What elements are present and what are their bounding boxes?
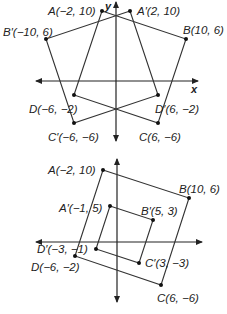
label-c-prime: C′(−6, −6)	[48, 131, 99, 143]
label-d: D(−6, −2)	[29, 103, 78, 115]
diagram-canvas: x y A(−2, 10) A′(2, 10) B′(−10, 6) B(10,…	[0, 0, 227, 314]
label-c: C(6, −6)	[157, 292, 199, 304]
diagram-1: x y A(−2, 10) A′(2, 10) B′(−10, 6) B(10,…	[3, 0, 224, 143]
label-b: B(10, 6)	[183, 24, 224, 36]
label-b-prime: B′(−10, 6)	[3, 26, 53, 38]
label-c: C(6, −6)	[139, 131, 181, 143]
label-a: A(−2, 10)	[47, 164, 96, 176]
label-b: B(10, 6)	[179, 183, 220, 195]
label-a-prime: A′(2, 10)	[136, 5, 180, 17]
label-a-prime: A′(−1, 5)	[58, 202, 103, 214]
x-axis-label: x	[190, 83, 198, 95]
label-d-prime: D′(−3, −1)	[37, 243, 88, 255]
y-axis-label: y	[104, 0, 112, 12]
diagram-2: A(−2, 10) B(10, 6) A′(−1, 5) B′(5, 3) D′…	[31, 159, 220, 304]
label-d-prime: D′(6, −2)	[155, 103, 199, 115]
label-a: A(−2, 10)	[47, 5, 96, 17]
label-c-prime: C′(3, −3)	[145, 257, 189, 269]
vertex-points	[73, 168, 191, 287]
label-b-prime: B′(5, 3)	[141, 205, 178, 217]
label-d: D(−6, −2)	[31, 261, 80, 273]
